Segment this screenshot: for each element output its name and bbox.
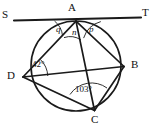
geometry-figure: A B C D S T q n p 42° 103°	[0, 0, 153, 129]
vertex-label-t: T	[142, 7, 149, 18]
tangent-line-st	[14, 18, 141, 21]
vertex-label-s: S	[2, 9, 8, 20]
vertex-label-a: A	[68, 2, 76, 13]
vertex-label-d: D	[7, 70, 15, 81]
angle-label-n: n	[72, 28, 77, 37]
angle-label-q: q	[56, 25, 61, 34]
angle-label-p: p	[89, 25, 94, 34]
vertex-label-c: C	[91, 114, 98, 125]
chord-cb	[95, 67, 125, 111]
vertex-label-b: B	[131, 59, 138, 70]
angle-label-103: 103°	[75, 85, 92, 94]
angle-label-42: 42°	[32, 60, 45, 69]
